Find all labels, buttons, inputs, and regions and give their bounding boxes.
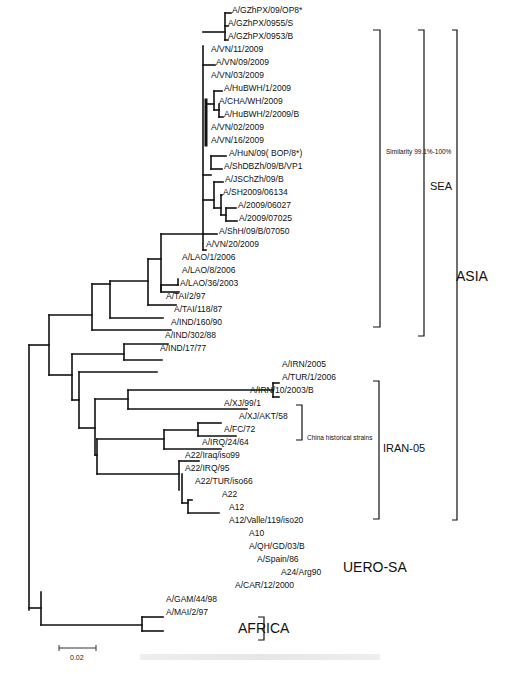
taxon-label: A/LAO/8/2006 [182, 265, 235, 275]
taxon-label: A22 [222, 489, 237, 499]
taxon-label: A/MAI/2/97 [166, 607, 208, 617]
taxon-label: A/GZhPX/09/OP8* [232, 5, 302, 15]
group-label-sea: SEA [430, 180, 452, 192]
taxon-label: A/TUR/1/2006 [282, 372, 336, 382]
taxon-label: A12 [229, 502, 244, 512]
group-label-asia: ASIA [456, 268, 488, 284]
taxon-label: A/IND/302/88 [165, 330, 216, 340]
taxon-label: A/XJ/99/1 [224, 398, 261, 408]
group-label-africa: AFRICA [238, 620, 289, 636]
china-historical-annotation: China historical strains [307, 434, 372, 441]
taxon-label: A/Spain/86 [257, 554, 299, 564]
taxon-label: A12/Valle/119/iso20 [229, 515, 303, 525]
taxon-label: A/VN/03/2009 [211, 70, 264, 80]
taxon-label: A/GZhPX/0953/B [228, 31, 293, 41]
taxon-label: A/ShH/09/B/07050 [219, 226, 289, 236]
taxon-label: A/VN/11/2009 [211, 44, 263, 54]
scale-bar-label: 0.02 [70, 654, 84, 661]
taxon-label: A/VN/16/2009 [211, 135, 264, 145]
taxon-label: A/SH2009/06134 [223, 187, 288, 197]
taxon-label: A/IRN/2005 [282, 359, 326, 369]
taxon-label: A/CHA/WH/2009 [219, 96, 283, 106]
taxon-label: A/2009/06027 [238, 200, 291, 210]
taxon-label: A/IND/17/77 [160, 343, 206, 353]
taxon-label: A/HuBWH/1/2009 [224, 83, 291, 93]
taxon-label: A/HuN/09( BOP/8*) [229, 148, 302, 158]
taxon-label: A/2009/07025 [239, 213, 292, 223]
taxon-label: A/XJ/AKT/58 [239, 411, 288, 421]
group-label-iran05: IRAN-05 [383, 442, 425, 454]
taxon-label: A/VN/09/2009 [216, 57, 269, 67]
taxon-label: A/JSChZh/09/B [225, 174, 284, 184]
taxon-label: A/ShDBZh/09/B/VP1 [224, 161, 302, 171]
taxon-label: A/QH/GD/03/B [249, 541, 305, 551]
taxon-label: A22/IRQ/95 [185, 463, 229, 473]
figure-caption [140, 654, 380, 660]
taxon-label: A/GAM/44/98 [166, 594, 217, 604]
group-label-uero-sa: UERO-SA [343, 559, 407, 575]
taxon-label: A/VN/02/2009 [211, 122, 264, 132]
taxon-label: A/TAI/118/87 [174, 304, 222, 314]
taxon-label: A22/TUR/iso66 [195, 476, 253, 486]
taxon-label: A/HuBWH/2/2009/B [224, 109, 299, 119]
taxon-label: A/LAO/1/2006 [182, 252, 235, 262]
taxon-label: A/CAR/12/2000 [235, 580, 294, 590]
scale-bar [59, 645, 96, 651]
taxon-label: A10 [249, 528, 264, 538]
taxon-label: A/TAI/2/97 [166, 291, 206, 301]
similarity-annotation: Similarity 99.1%-100% [386, 148, 451, 155]
taxon-label: A/IRQ/24/64 [202, 437, 249, 447]
taxon-label: A/GZhPX/0955/S [228, 18, 293, 28]
taxon-label: A/IRN/10/2003/B [250, 385, 314, 395]
taxon-label: A24/Arg90 [281, 567, 321, 577]
taxon-label: A/FC/72 [224, 424, 255, 434]
taxon-label: A/IND/160/90 [171, 317, 222, 327]
taxon-label: A/LAO/36/2003 [180, 278, 238, 288]
taxon-label: A/VN/20/2009 [206, 239, 259, 249]
taxon-label: A22/Iraq/iso99 [185, 450, 240, 460]
